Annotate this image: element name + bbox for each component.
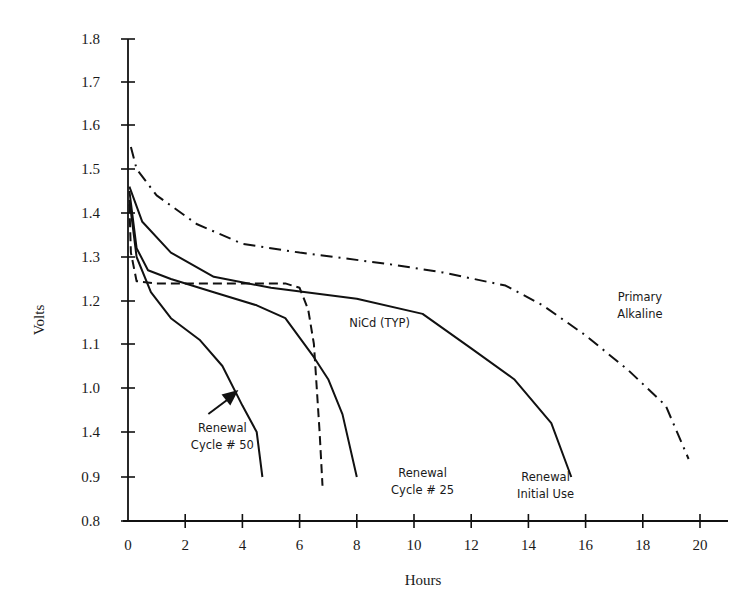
- series-renewal-initial-use: [129, 187, 571, 477]
- y-tick-label: 0.8: [81, 513, 100, 529]
- x-tick-label: 18: [635, 537, 650, 553]
- y-axis: 1.81.71.61.51.41.31.21.11.01.40.90.8: [81, 31, 135, 529]
- annotation-label: RenewalCycle # 50: [191, 421, 254, 452]
- x-axis: 02468101214161820: [123, 514, 728, 553]
- x-tick-label: 0: [124, 537, 132, 553]
- x-tick-label: 4: [239, 537, 247, 553]
- y-tick-label: 1.1: [81, 336, 100, 352]
- x-tick-label: 14: [521, 537, 537, 553]
- annotation-label: RenewalInitial Use: [517, 470, 574, 501]
- annotation-label: RenewalCycle # 25: [391, 466, 454, 497]
- y-axis-title: Volts: [31, 305, 47, 336]
- x-axis-title: Hours: [405, 572, 442, 588]
- x-tick-label: 8: [353, 537, 361, 553]
- annotation-label: NiCd (TYP): [349, 316, 410, 330]
- y-tick-label: 1.2: [81, 293, 100, 309]
- series-primary-alkaline: [131, 147, 689, 459]
- y-tick-label: 1.8: [81, 31, 100, 47]
- series-renewal-cycle-50: [129, 200, 262, 477]
- y-tick-label: 1.0: [81, 380, 100, 396]
- y-tick-label: 1.4: [81, 205, 100, 221]
- x-tick-label: 16: [578, 537, 594, 553]
- x-tick-label: 12: [464, 537, 479, 553]
- x-tick-label: 10: [407, 537, 422, 553]
- y-tick-label: 1.6: [81, 117, 100, 133]
- y-tick-label: 1.3: [81, 249, 100, 265]
- x-tick-label: 6: [296, 537, 304, 553]
- y-tick-label: 1.7: [81, 74, 100, 90]
- y-tick-label: 1.4: [81, 424, 100, 440]
- annotation-label: PrimaryAlkaline: [617, 290, 662, 321]
- discharge-chart: 1.81.71.61.51.41.31.21.11.01.40.90.8 024…: [0, 0, 756, 615]
- x-tick-label: 2: [181, 537, 189, 553]
- x-tick-label: 20: [693, 537, 708, 553]
- y-tick-label: 1.5: [81, 161, 100, 177]
- y-tick-label: 0.9: [81, 469, 100, 485]
